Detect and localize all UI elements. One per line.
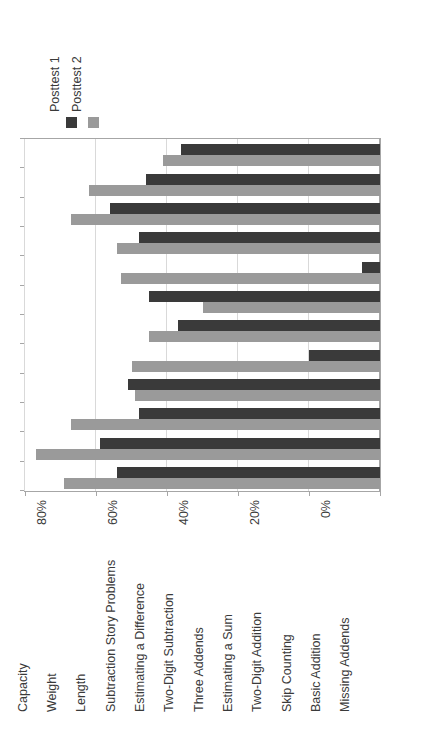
category-label: Skip Counting (279, 502, 295, 712)
value-tick (309, 492, 310, 496)
value-tick (238, 492, 239, 496)
category-label: Two-Digit Subtraction (161, 502, 177, 712)
category-labels: CapacityWeightLengthSubtraction Story Pr… (0, 138, 431, 492)
category-label: Length (73, 502, 89, 712)
category-label: Capacity (15, 502, 31, 712)
category-label: Estimating a Sum (220, 502, 236, 712)
legend-swatch-posttest-1 (66, 117, 77, 128)
value-tick (167, 492, 168, 496)
value-tick (25, 492, 26, 496)
value-tick (380, 492, 381, 496)
chart-legend: Posttest 1 Posttest 2 (58, 8, 118, 128)
legend-label-posttest-1: Posttest 1 (48, 0, 62, 112)
category-label: Three Addends (191, 502, 207, 712)
legend-entry-posttest-2: Posttest 2 (84, 8, 106, 128)
category-label: Two-Digit Addition (249, 502, 265, 712)
value-tick (96, 492, 97, 496)
legend-swatch-posttest-2 (88, 117, 99, 128)
legend-label-posttest-2: Posttest 2 (70, 0, 84, 112)
category-label: Subtraction Story Problems (103, 502, 119, 712)
chart-canvas: Posttest 1 Posttest 2 0%20%40%60%80%100%… (0, 0, 431, 731)
category-label: Missing Addends (337, 502, 353, 712)
category-label: Weight (44, 502, 60, 712)
category-label: Basic Addition (308, 502, 324, 712)
category-label: Estimating a Difference (132, 502, 148, 712)
